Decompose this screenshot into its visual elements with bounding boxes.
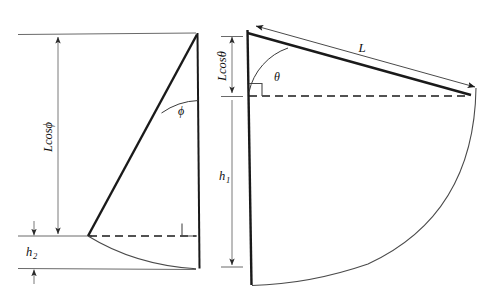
h1-label-group: h 1 <box>219 169 230 185</box>
beam-swing-diagram: Lcosϕ ϕ h 2 <box>0 0 490 304</box>
diagram-canvas: Lcosϕ ϕ h 2 <box>0 0 490 304</box>
right-swing-arc <box>252 88 476 286</box>
beam-length-label: L <box>357 40 365 55</box>
length-dimension-L-line <box>256 26 475 87</box>
left-post <box>198 33 200 269</box>
theta-angle-arc <box>249 48 288 92</box>
lcos-theta-label: Lcosθ <box>215 51 229 82</box>
right-panel-group: Lcosθ θ L h 1 <box>215 26 476 286</box>
left-panel-group: Lcosϕ ϕ h 2 <box>18 33 200 284</box>
left-right-angle-marker <box>182 224 197 237</box>
phi-angle-label: ϕ <box>178 104 184 118</box>
top-reference-line-left <box>18 33 196 35</box>
h1-label-subscript: 1 <box>226 175 230 185</box>
theta-angle-label: θ <box>274 70 280 84</box>
h2-label-subscript: 2 <box>33 251 38 261</box>
bottom-reference-line-left <box>18 269 196 270</box>
lcos-phi-label: Lcosϕ <box>41 121 55 153</box>
h2-label-group: h 2 <box>26 245 38 261</box>
right-post <box>248 30 252 285</box>
h1-label: h <box>219 169 225 183</box>
left-swing-arc <box>88 236 196 269</box>
left-beam <box>88 35 197 237</box>
h2-label: h <box>26 245 32 259</box>
